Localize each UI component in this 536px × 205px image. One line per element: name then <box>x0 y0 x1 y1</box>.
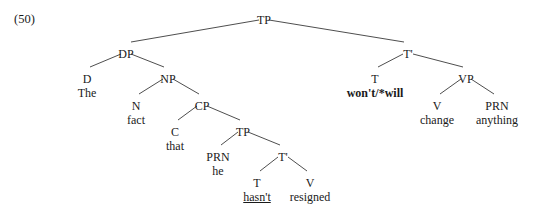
tree-node-v-change: Vchange <box>420 100 454 128</box>
tree-node-vp: VP <box>458 73 473 86</box>
node-category-label: N <box>127 100 145 113</box>
node-category-label: C <box>166 126 184 139</box>
tree-node-n: Nfact <box>127 100 145 128</box>
node-category-label: V <box>290 177 331 190</box>
node-category-label: TP <box>257 14 271 27</box>
node-category-label: TP <box>236 126 250 139</box>
node-category-label: D <box>78 73 97 86</box>
tree-branch <box>288 157 307 171</box>
node-category-label: NP <box>160 73 175 86</box>
tree-branch <box>207 106 240 120</box>
tree-node-t-hasnt: Thasn't <box>243 177 271 205</box>
tree-node-tp-root: TP <box>257 14 271 27</box>
node-category-label: DP <box>118 48 133 61</box>
tree-node-d: DThe <box>78 73 97 101</box>
tree-branch <box>413 54 463 67</box>
tree-node-t-wont: Twon't/*will <box>347 73 404 101</box>
node-category-label: CP <box>195 100 210 113</box>
node-terminal-word: anything <box>476 114 518 127</box>
tree-node-prn-he: PRNhe <box>206 151 229 179</box>
tree-node-dp: DP <box>118 48 133 61</box>
node-category-label: T <box>347 73 404 86</box>
tree-branch <box>90 54 121 67</box>
tree-node-c: Cthat <box>166 126 184 154</box>
tree-node-tbar-emb: T' <box>278 151 288 164</box>
node-terminal-word: change <box>420 114 454 127</box>
node-terminal-word: won't/*will <box>347 87 404 100</box>
node-terminal-word: hasn't <box>243 191 271 204</box>
node-terminal-word: resigned <box>290 191 331 204</box>
syntax-tree-figure: (50) TPDPDTheNPNfactCPCthatTPPRNheT'Thas… <box>0 0 536 205</box>
tree-branch <box>260 157 278 171</box>
tree-branch <box>471 79 494 94</box>
node-terminal-word: he <box>206 165 229 178</box>
tree-branch <box>378 54 403 67</box>
tree-branch <box>173 79 199 94</box>
node-terminal-word: that <box>166 140 184 153</box>
tree-node-np: NP <box>160 73 175 86</box>
node-category-label: T' <box>403 48 413 61</box>
tree-branch-lines <box>0 0 536 205</box>
node-category-label: PRN <box>206 151 229 164</box>
tree-branch <box>131 54 164 67</box>
node-category-label: T <box>243 177 271 190</box>
tree-node-prn-any: PRNanything <box>476 100 518 128</box>
node-category-label: VP <box>458 73 473 86</box>
tree-node-v-res: Vresigned <box>290 177 331 205</box>
node-category-label: PRN <box>476 100 518 113</box>
tree-node-tbar-mat: T' <box>403 48 413 61</box>
tree-branch <box>131 20 259 42</box>
node-category-label: V <box>420 100 454 113</box>
tree-node-tp-emb: TP <box>236 126 250 139</box>
tree-branch <box>269 20 404 42</box>
tree-node-cp: CP <box>195 100 210 113</box>
node-category-label: T' <box>278 151 288 164</box>
node-terminal-word: fact <box>127 114 145 127</box>
tree-branch <box>248 132 280 145</box>
node-terminal-word: The <box>78 87 97 100</box>
